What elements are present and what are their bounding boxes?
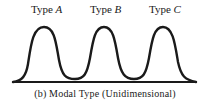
figure-caption: (b) Modal Type (Unidimensional) (0, 88, 210, 99)
trimodal-curve (13, 27, 196, 82)
